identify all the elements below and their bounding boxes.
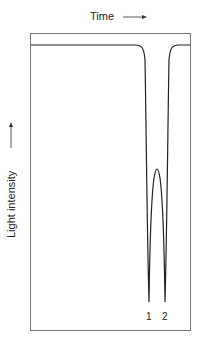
dip-1-label: 1 [146,311,152,322]
light-curve-line [31,45,190,302]
plot-frame [31,34,191,331]
y-axis-label: Light intensity [5,170,17,238]
right-arrow-icon [123,15,147,19]
light-curve-chart: Time Light intensity 1 2 [0,0,221,347]
up-arrow-icon [9,122,13,148]
dip-2-label: 2 [162,311,168,322]
x-axis-label: Time [90,10,114,22]
